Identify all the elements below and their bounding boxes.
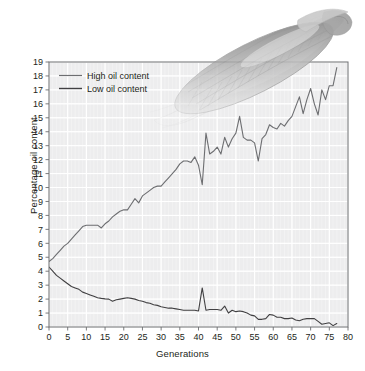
y-tick-label: 13 [33, 141, 43, 151]
x-tick-label: 10 [81, 332, 91, 342]
y-tick-label: 11 [34, 169, 43, 179]
chart-figure: Percentage oil content 01234567891011121… [0, 0, 365, 371]
y-tick-label: 5 [38, 252, 43, 262]
y-tick-label: 4 [38, 266, 43, 276]
x-tick-label: 40 [193, 332, 203, 342]
x-tick-label: 60 [268, 332, 278, 342]
y-tick-label: 17 [33, 85, 43, 95]
x-tick-label: 65 [287, 332, 297, 342]
y-tick-label: 3 [38, 280, 43, 290]
x-tick-label: 70 [306, 332, 316, 342]
y-tick-label: 1 [38, 308, 43, 318]
y-tick-label: 15 [33, 113, 43, 123]
y-tick-label: 18 [33, 71, 43, 81]
y-tick-label: 9 [38, 197, 43, 207]
y-tick-label: 16 [33, 99, 43, 109]
x-tick-label: 45 [212, 332, 222, 342]
y-tick-label: 8 [38, 211, 43, 221]
x-tick-label: 75 [324, 332, 334, 342]
x-tick-label: 35 [175, 332, 185, 342]
plot-area: 012345678910111213141516171819 051015202… [0, 0, 365, 371]
legend-label-low-oil-content: Low oil content [87, 84, 148, 94]
y-tick-label: 14 [33, 127, 43, 137]
y-tick-label: 10 [33, 183, 43, 193]
y-tick-label: 0 [38, 322, 43, 332]
x-tick-label: 20 [119, 332, 129, 342]
y-tick-label: 6 [38, 239, 43, 249]
x-tick-label: 30 [156, 332, 166, 342]
x-tick-label: 55 [250, 332, 260, 342]
x-tick-label: 0 [46, 332, 51, 342]
x-tick-label: 25 [137, 332, 147, 342]
y-tick-label: 19 [33, 57, 43, 67]
legend-label-high-oil-content: High oil content [87, 71, 150, 81]
x-tick-label: 15 [100, 332, 110, 342]
y-tick-label: 7 [38, 225, 43, 235]
x-tick-label: 80 [343, 332, 353, 342]
y-tick-label: 12 [33, 155, 43, 165]
y-axis-ticks: 012345678910111213141516171819 [33, 57, 49, 332]
x-tick-label: 5 [65, 332, 70, 342]
x-tick-label: 50 [231, 332, 241, 342]
x-axis-ticks: 05101520253035404550556065707580 [46, 327, 353, 342]
y-tick-label: 2 [38, 294, 43, 304]
